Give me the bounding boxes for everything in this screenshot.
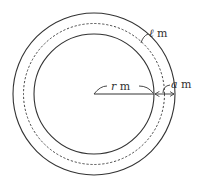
radius-label: r m bbox=[111, 80, 131, 93]
length-label: ℓ m bbox=[149, 27, 168, 40]
width-label: a m bbox=[171, 78, 192, 91]
length-leader bbox=[141, 34, 148, 43]
width-leader bbox=[163, 85, 170, 93]
radius-brace bbox=[139, 86, 153, 93]
radius-brace bbox=[94, 86, 107, 94]
track-diagram: r m a m ℓ m bbox=[0, 0, 209, 183]
